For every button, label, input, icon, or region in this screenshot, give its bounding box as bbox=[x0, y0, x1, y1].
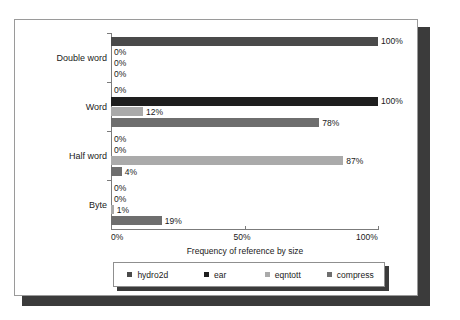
bar-value-label: 0% bbox=[114, 184, 126, 193]
category-label: Word bbox=[7, 102, 107, 112]
bar bbox=[111, 118, 319, 127]
bar-value-label: 100% bbox=[381, 37, 403, 46]
y-axis-tick bbox=[107, 33, 111, 34]
x-axis-tick-label: 50% bbox=[234, 232, 251, 242]
legend-item[interactable]: hydro2d bbox=[114, 270, 182, 280]
bar bbox=[111, 107, 143, 116]
legend-item[interactable]: ear bbox=[182, 270, 250, 280]
legend-label: eqntott bbox=[275, 270, 301, 280]
chart-figure: 100%0%0%0%0%100%12%78%0%0%87%4%0%0%1%19%… bbox=[0, 0, 460, 320]
category-label: Double word bbox=[7, 53, 107, 63]
bar bbox=[111, 167, 122, 176]
legend-swatch-icon bbox=[127, 272, 132, 277]
bar-value-label: 19% bbox=[165, 217, 182, 226]
x-axis-tick-label: 0% bbox=[111, 232, 123, 242]
x-axis-tick-label: 100% bbox=[356, 232, 378, 242]
bar-value-label: 0% bbox=[114, 86, 126, 95]
bar bbox=[111, 37, 378, 46]
x-axis-title: Frequency of reference by size bbox=[111, 246, 379, 257]
bar bbox=[111, 156, 343, 165]
bar-value-label: 0% bbox=[114, 59, 126, 68]
bar-value-label: 1% bbox=[117, 206, 129, 215]
x-axis-tick bbox=[111, 226, 112, 230]
x-axis-tick bbox=[378, 226, 379, 230]
bar-value-label: 4% bbox=[125, 168, 137, 177]
bar-value-label: 78% bbox=[322, 119, 339, 128]
y-axis-tick bbox=[107, 131, 111, 132]
legend-swatch-icon bbox=[327, 272, 332, 277]
y-axis-tick bbox=[107, 82, 111, 83]
category-label: Byte bbox=[7, 200, 107, 210]
legend-label: compress bbox=[337, 270, 374, 280]
legend-item[interactable]: compress bbox=[317, 270, 385, 280]
bar-value-label: 0% bbox=[114, 146, 126, 155]
legend-swatch-icon bbox=[265, 272, 270, 277]
chart-legend: hydro2deareqntottcompress bbox=[113, 262, 385, 287]
bar-value-label: 0% bbox=[114, 195, 126, 204]
bar bbox=[111, 97, 378, 106]
legend-swatch-icon bbox=[204, 272, 209, 277]
bar-value-label: 0% bbox=[114, 70, 126, 79]
bar-value-label: 100% bbox=[381, 97, 403, 106]
category-label: Half word bbox=[7, 151, 107, 161]
bar bbox=[111, 216, 162, 225]
bar-value-label: 0% bbox=[114, 135, 126, 144]
x-axis-tick bbox=[245, 226, 246, 230]
bar-value-label: 12% bbox=[146, 108, 163, 117]
y-axis-tick bbox=[107, 180, 111, 181]
plot-area: 100%0%0%0%0%100%12%78%0%0%87%4%0%0%1%19% bbox=[111, 33, 378, 229]
legend-label: ear bbox=[214, 270, 226, 280]
bar-value-label: 87% bbox=[346, 157, 363, 166]
bar-value-label: 0% bbox=[114, 48, 126, 57]
legend-item[interactable]: eqntott bbox=[249, 270, 317, 280]
legend-label: hydro2d bbox=[137, 270, 168, 280]
bar bbox=[111, 205, 114, 214]
